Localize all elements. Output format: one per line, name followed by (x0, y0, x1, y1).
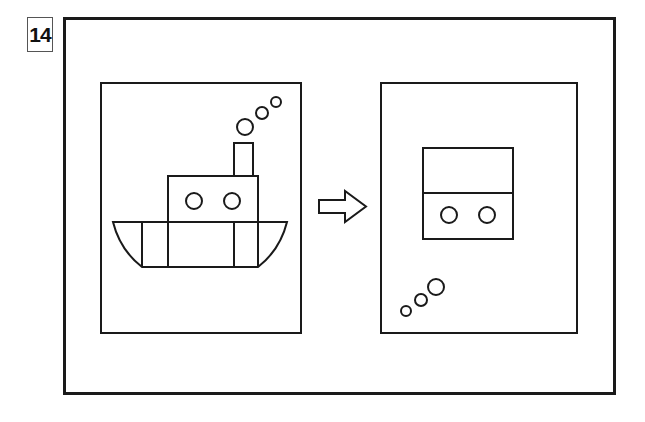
porthole-icon (479, 207, 495, 223)
bubble-icon (428, 279, 444, 295)
smoke-puff-icon (271, 97, 281, 107)
boat-chimney (234, 143, 253, 176)
bubble-icon (401, 306, 411, 316)
left-panel-border (101, 83, 301, 333)
right-panel-border (381, 83, 577, 333)
right-panel (381, 83, 577, 333)
bubble-icon (415, 294, 427, 306)
smoke-puff-icon (237, 119, 253, 135)
arrow-right-icon (319, 191, 366, 222)
porthole-icon (441, 207, 457, 223)
porthole-icon (224, 193, 240, 209)
boat-cabin (168, 176, 258, 222)
porthole-icon (186, 193, 202, 209)
smoke-puff-icon (256, 107, 268, 119)
figure-canvas (0, 0, 645, 422)
boat-illustration (113, 97, 287, 267)
boat-hull (113, 222, 287, 267)
left-panel (101, 83, 301, 333)
cabin-fragment (401, 148, 513, 316)
